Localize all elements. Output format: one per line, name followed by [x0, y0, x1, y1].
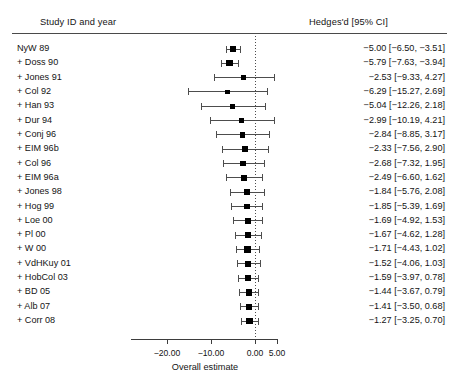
study-label: + EIM 96a: [17, 172, 59, 182]
ci-upper-cap: [267, 88, 268, 95]
ci-lower-cap: [233, 217, 234, 224]
ci-lower-cap: [216, 131, 217, 138]
ci-upper-cap: [258, 303, 259, 310]
ci-lower-cap: [226, 46, 227, 53]
point-estimate-marker: [241, 175, 247, 181]
effect-size-label: −1.85 [−5.39, 1.69]: [369, 201, 445, 211]
study-label: + Han 93: [17, 100, 54, 110]
x-axis-tick: [255, 339, 256, 344]
effect-size-label: −2.68 [−7.32, 1.95]: [369, 158, 445, 168]
header-divider: [12, 33, 447, 34]
effect-size-label: −1.67 [−4.62, 1.28]: [369, 229, 445, 239]
study-label: + Dur 94: [17, 115, 52, 125]
point-estimate-marker: [245, 275, 251, 281]
study-label: + EIM 96b: [17, 143, 59, 153]
zero-reference-line: [255, 36, 256, 339]
ci-upper-cap: [265, 103, 266, 110]
study-label: + Doss 90: [17, 57, 58, 67]
point-estimate-marker: [240, 161, 246, 167]
ci-lower-cap: [223, 160, 224, 167]
point-estimate-marker: [244, 189, 250, 195]
ci-lower-cap: [238, 275, 239, 282]
ci-lower-cap: [236, 246, 237, 253]
x-axis-tick: [167, 339, 168, 344]
point-estimate-marker: [242, 146, 248, 152]
effect-size-label: −2.49 [−6.60, 1.62]: [369, 172, 445, 182]
ci-upper-cap: [238, 60, 239, 67]
ci-upper-cap: [269, 131, 270, 138]
effect-size-label: −5.04 [−12.26, 2.18]: [364, 100, 445, 110]
ci-lower-cap: [214, 74, 215, 81]
point-estimate-marker: [230, 46, 236, 52]
ci-upper-cap: [264, 160, 265, 167]
point-estimate-marker: [230, 104, 235, 109]
point-estimate-marker: [244, 204, 250, 210]
ci-lower-cap: [231, 203, 232, 210]
point-estimate-marker: [226, 60, 232, 66]
x-axis-tick: [277, 339, 278, 344]
effect-size-label: −2.53 [−9.33, 4.27]: [369, 72, 445, 82]
ci-lower-cap: [221, 60, 222, 67]
column-header-study: Study ID and year: [40, 17, 116, 27]
effect-size-label: −5.79 [−7.63, −3.94]: [363, 57, 445, 67]
ci-lower-cap: [240, 303, 241, 310]
study-label: + Jones 98: [17, 186, 62, 196]
ci-upper-cap: [258, 318, 259, 325]
ci-upper-cap: [260, 260, 261, 267]
effect-size-label: −6.29 [−15.27, 2.69]: [364, 86, 445, 96]
effect-size-label: −1.69 [−4.92, 1.53]: [369, 215, 445, 225]
study-label: + W 00: [17, 243, 46, 253]
point-estimate-marker: [244, 246, 250, 252]
x-axis-title: Overall estimate: [172, 362, 238, 372]
ci-upper-cap: [258, 275, 259, 282]
study-label: + Conj 96: [17, 129, 56, 139]
effect-size-label: −1.41 [−3.50, 0.68]: [369, 301, 445, 311]
point-estimate-marker: [245, 232, 251, 238]
effect-size-label: −1.71 [−4.43, 1.02]: [369, 243, 445, 253]
ci-upper-cap: [264, 189, 265, 196]
study-label: + HobCol 03: [17, 272, 68, 282]
ci-upper-cap: [259, 246, 260, 253]
effect-size-label: −1.44 [−3.67, 0.79]: [369, 286, 445, 296]
point-estimate-marker: [246, 304, 252, 310]
ci-upper-cap: [274, 74, 275, 81]
study-label: + Jones 91: [17, 72, 62, 82]
effect-size-label: −2.33 [−7.56, 2.90]: [369, 143, 445, 153]
point-estimate-marker: [246, 318, 252, 324]
ci-upper-cap: [262, 217, 263, 224]
point-estimate-marker: [245, 261, 251, 267]
study-label: + Col 96: [17, 158, 51, 168]
ci-upper-cap: [262, 203, 263, 210]
x-axis-tick-label: 0.00: [247, 348, 264, 358]
x-axis-tick-label: −20.00: [154, 348, 181, 358]
x-axis-tick-label: 5.00: [269, 348, 286, 358]
ci-lower-cap: [201, 103, 202, 110]
ci-lower-cap: [226, 174, 227, 181]
ci-upper-cap: [258, 289, 259, 296]
effect-size-label: −1.59 [−3.97, 0.78]: [369, 272, 445, 282]
x-axis-tick: [211, 339, 212, 344]
study-label: NyW 89: [17, 43, 49, 53]
ci-upper-cap: [274, 117, 275, 124]
study-label: + BD 05: [17, 286, 50, 296]
ci-upper-cap: [268, 146, 269, 153]
effect-size-label: −1.27 [−3.25, 0.70]: [369, 315, 445, 325]
effect-size-label: −2.99 [−10.19, 4.21]: [364, 115, 445, 125]
ci-lower-cap: [230, 189, 231, 196]
study-label: + Corr 08: [17, 315, 55, 325]
ci-lower-cap: [188, 88, 189, 95]
forest-plot: Study ID and year Hedges'd [95% CI] NyW …: [0, 0, 459, 391]
point-estimate-marker: [246, 289, 252, 295]
study-label: + Hog 99: [17, 201, 54, 211]
study-label: + VdHKuy 01: [17, 258, 71, 268]
ci-lower-cap: [239, 289, 240, 296]
effect-size-label: −5.00 [−6.50, −3.51]: [363, 43, 445, 53]
effect-size-label: −1.84 [−5.76, 2.08]: [369, 186, 445, 196]
point-estimate-marker: [225, 90, 230, 95]
ci-upper-cap: [262, 174, 263, 181]
ci-lower-cap: [241, 318, 242, 325]
point-estimate-marker: [241, 75, 246, 80]
study-label: + Loe 00: [17, 215, 53, 225]
column-header-effect-size: Hedges'd [95% CI]: [309, 17, 388, 27]
x-axis-tick-label: −10.00: [198, 348, 225, 358]
